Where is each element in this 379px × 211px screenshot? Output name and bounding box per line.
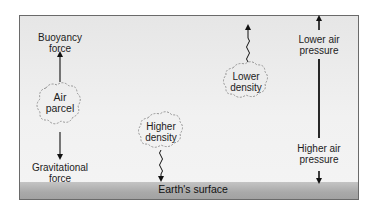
lower-density-label: Lower density <box>211 71 281 93</box>
higher-air-pressure-label-line2: pressure <box>284 154 354 165</box>
lower-density-label-line1: Lower <box>211 71 281 82</box>
gravitational-force-label-line1: Gravitational <box>15 162 105 173</box>
gravitational-force-label-line2: force <box>15 173 105 184</box>
gravitational-force-label: Gravitational force <box>15 162 105 184</box>
higher-density-label: Higher density <box>126 121 196 143</box>
lower-air-pressure-label: Lower air pressure <box>284 34 354 56</box>
air-parcel-label: Air parcel <box>25 92 95 114</box>
lower-density-label-line2: density <box>211 82 281 93</box>
rising-wavy-arrow-icon <box>247 27 250 62</box>
higher-air-pressure-label: Higher air pressure <box>284 143 354 165</box>
sinking-wavy-arrow-icon <box>160 150 163 179</box>
air-parcel-label-line2: parcel <box>25 103 95 114</box>
higher-density-label-line2: density <box>126 132 196 143</box>
lower-air-pressure-label-line1: Lower air <box>284 34 354 45</box>
buoyancy-force-label-line1: Buoyancy <box>25 32 95 43</box>
lower-air-pressure-label-line2: pressure <box>284 45 354 56</box>
higher-air-pressure-label-line1: Higher air <box>284 143 354 154</box>
higher-density-label-line1: Higher <box>126 121 196 132</box>
buoyancy-force-label-line2: force <box>25 43 95 54</box>
buoyancy-force-label: Buoyancy force <box>25 32 95 54</box>
